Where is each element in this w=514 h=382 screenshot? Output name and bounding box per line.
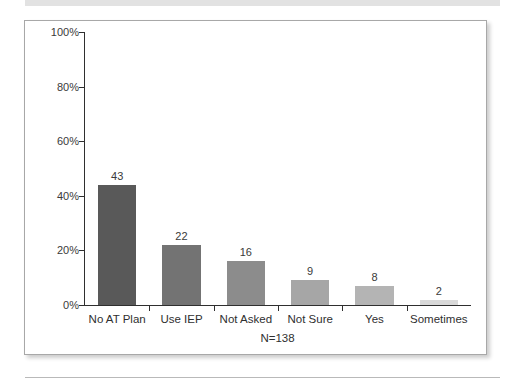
y-axis-tick xyxy=(79,305,85,306)
y-axis-tick-label: 80% xyxy=(33,82,79,93)
x-axis-tick xyxy=(149,306,150,311)
y-axis-tick-label: 20% xyxy=(33,245,79,256)
y-axis-tick-label-wrap: 100% xyxy=(25,27,79,38)
bar[interactable] xyxy=(291,280,330,305)
x-axis-category-label: Not Sure xyxy=(278,313,342,326)
bar[interactable] xyxy=(162,245,201,305)
bar[interactable] xyxy=(227,261,266,305)
y-axis-tick-label: 0% xyxy=(33,300,79,311)
y-axis-tick-label: 100% xyxy=(33,27,79,38)
x-axis-category-label: Sometimes xyxy=(407,313,471,326)
y-axis-tick-label-wrap: 80% xyxy=(25,82,79,93)
y-axis-tick-label: 60% xyxy=(33,136,79,147)
x-axis-category-label: Use IEP xyxy=(149,313,213,326)
bar-value-label: 9 xyxy=(291,265,330,277)
bar-slot: 8 xyxy=(355,32,394,305)
bar-value-label: 2 xyxy=(420,285,459,297)
bar[interactable] xyxy=(98,185,137,305)
bar-slot: 9 xyxy=(291,32,330,305)
x-axis-tick xyxy=(214,306,215,311)
bar-value-label: 8 xyxy=(355,271,394,283)
x-axis-tick xyxy=(278,306,279,311)
bar[interactable] xyxy=(355,286,394,305)
bar-slot: 16 xyxy=(227,32,266,305)
sample-size-label: N=138 xyxy=(84,332,471,345)
x-axis-category-label: Not Asked xyxy=(214,313,278,326)
page-bottom-rule xyxy=(25,377,500,378)
bar-value-label: 43 xyxy=(98,170,137,182)
y-axis-tick-label-wrap: 60% xyxy=(25,136,79,147)
bar-slot: 43 xyxy=(98,32,137,305)
bar-slot: 2 xyxy=(420,32,459,305)
y-axis-tick-label-wrap: 20% xyxy=(25,245,79,256)
x-axis-category-label: Yes xyxy=(342,313,406,326)
x-axis-tick xyxy=(342,306,343,311)
bar-value-label: 22 xyxy=(162,230,201,242)
y-axis-tick-label-wrap: 40% xyxy=(25,191,79,202)
bar-chart-plot: 0%20%40%60%80%100% 432216982 No AT PlanU… xyxy=(25,21,486,354)
y-axis-tick-label: 40% xyxy=(33,191,79,202)
x-axis-tick xyxy=(407,306,408,311)
x-axis-category-label: No AT Plan xyxy=(85,313,149,326)
bar-series: 432216982 xyxy=(85,32,471,305)
bar[interactable] xyxy=(420,300,459,305)
bar-slot: 22 xyxy=(162,32,201,305)
bar-value-label: 16 xyxy=(227,246,266,258)
chart-figure-frame: 0%20%40%60%80%100% 432216982 No AT PlanU… xyxy=(24,20,487,355)
page-top-rule xyxy=(25,0,500,6)
y-axis-tick-label-wrap: 0% xyxy=(25,300,79,311)
